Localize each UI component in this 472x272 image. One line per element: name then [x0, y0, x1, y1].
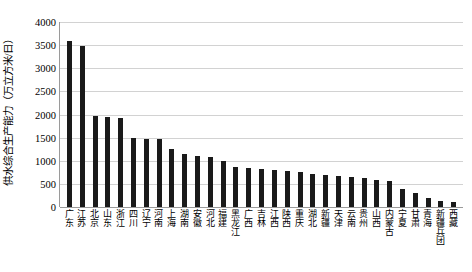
- bar[interactable]: [80, 46, 85, 207]
- bar[interactable]: [131, 138, 136, 207]
- bar-slot: [306, 22, 319, 207]
- bar[interactable]: [349, 177, 354, 207]
- x-slot: 甘肃: [408, 209, 421, 271]
- bar[interactable]: [400, 189, 405, 208]
- bar[interactable]: [323, 175, 328, 207]
- y-axis-tick-label: 1000: [16, 155, 56, 166]
- bar[interactable]: [374, 180, 379, 207]
- x-axis-tick-label: 江西: [269, 209, 279, 227]
- x-axis-tick-label: 新疆: [320, 209, 330, 227]
- x-axis-tick-label: 北京: [89, 209, 99, 227]
- x-slot: 北京: [88, 209, 101, 271]
- x-slot: 黑龙江: [229, 209, 242, 271]
- x-axis-tick-label: 广东: [64, 209, 74, 227]
- x-axis-tick-label: 福建: [217, 209, 227, 227]
- bar[interactable]: [285, 171, 290, 207]
- bar[interactable]: [233, 167, 238, 207]
- bar-slot: [371, 22, 384, 207]
- x-axis-tick-label: 黑龙江: [230, 209, 240, 236]
- x-axis-tick-label: 重庆: [294, 209, 304, 227]
- bar-slot: [89, 22, 102, 207]
- bar[interactable]: [118, 118, 123, 207]
- x-slot: 青海: [421, 209, 434, 271]
- x-slot: 江西: [267, 209, 280, 271]
- bar[interactable]: [438, 201, 443, 207]
- x-slot: 贵州: [357, 209, 370, 271]
- x-axis-tick-label: 贵州: [358, 209, 368, 227]
- bar[interactable]: [144, 139, 149, 207]
- bar-slot: [332, 22, 345, 207]
- x-axis-tick-label: 吉林: [256, 209, 266, 227]
- x-axis-tick-label: 甘肃: [410, 209, 420, 227]
- bar-slot: [191, 22, 204, 207]
- plot-area: [59, 22, 463, 207]
- bar[interactable]: [336, 176, 341, 207]
- x-axis-tick-label: 天津: [333, 209, 343, 227]
- y-axis-tick-label: 2500: [16, 86, 56, 97]
- y-axis-tick-label: 3000: [16, 63, 56, 74]
- bar-slot: [345, 22, 358, 207]
- x-slot: 宁夏: [395, 209, 408, 271]
- x-slot: 安徽: [190, 209, 203, 271]
- bar[interactable]: [221, 161, 226, 207]
- x-slot: 湖南: [177, 209, 190, 271]
- x-slot: 山西: [370, 209, 383, 271]
- bar[interactable]: [387, 181, 392, 207]
- x-slot: 广西: [241, 209, 254, 271]
- bar[interactable]: [310, 174, 315, 207]
- x-axis-tick-label: 新疆兵团: [435, 209, 445, 245]
- x-slot: 福建: [216, 209, 229, 271]
- x-slot: 陕西: [280, 209, 293, 271]
- bar-slot: [153, 22, 166, 207]
- bar[interactable]: [451, 202, 456, 207]
- bar-slot: [422, 22, 435, 207]
- y-axis-tick-labels: 05001000150020002500300035004000: [16, 14, 56, 214]
- x-axis-tick-label: 河北: [205, 209, 215, 227]
- x-axis-tick-label: 青海: [422, 209, 432, 227]
- bar-slot: [140, 22, 153, 207]
- bar-slot: [166, 22, 179, 207]
- bar[interactable]: [362, 178, 367, 207]
- bar[interactable]: [157, 139, 162, 207]
- x-axis-tick-label: 辽宁: [141, 209, 151, 227]
- bar-slot: [383, 22, 396, 207]
- bar-slot: [63, 22, 76, 207]
- x-axis-tick-label: 浙江: [115, 209, 125, 227]
- bar-slot: [178, 22, 191, 207]
- x-slot: 浙江: [113, 209, 126, 271]
- bar[interactable]: [208, 157, 213, 207]
- x-axis-tick-label: 上海: [166, 209, 176, 227]
- bar[interactable]: [298, 172, 303, 207]
- x-axis-tick-label: 河南: [153, 209, 163, 227]
- bar-slot: [127, 22, 140, 207]
- x-slot: 河南: [152, 209, 165, 271]
- x-slot: 重庆: [293, 209, 306, 271]
- bar-slot: [76, 22, 89, 207]
- bar[interactable]: [67, 41, 72, 208]
- bar-slot: [358, 22, 371, 207]
- bar[interactable]: [169, 149, 174, 207]
- bar[interactable]: [272, 170, 277, 207]
- x-axis-tick-label: 宁夏: [397, 209, 407, 227]
- x-slot: 河北: [203, 209, 216, 271]
- x-axis-tick-label: 云南: [346, 209, 356, 227]
- bar-slot: [409, 22, 422, 207]
- bar-series: [60, 22, 463, 207]
- x-slot: 内蒙古: [382, 209, 395, 271]
- bar[interactable]: [246, 168, 251, 207]
- bar[interactable]: [195, 156, 200, 207]
- x-axis-tick-label: 广西: [243, 209, 253, 227]
- bar[interactable]: [259, 169, 264, 207]
- bar-slot: [447, 22, 460, 207]
- x-slot: 山东: [100, 209, 113, 271]
- y-axis-tick-label: 500: [16, 178, 56, 189]
- bar[interactable]: [105, 117, 110, 207]
- bar[interactable]: [182, 154, 187, 207]
- bar[interactable]: [93, 116, 98, 207]
- bar[interactable]: [426, 198, 431, 207]
- x-slot: 西藏: [446, 209, 459, 271]
- y-axis-title: 供水综合生产能力（万立方米/日）: [2, 5, 16, 215]
- y-axis-tick-label: 1500: [16, 132, 56, 143]
- bar[interactable]: [413, 193, 418, 207]
- x-slot: 湖北: [305, 209, 318, 271]
